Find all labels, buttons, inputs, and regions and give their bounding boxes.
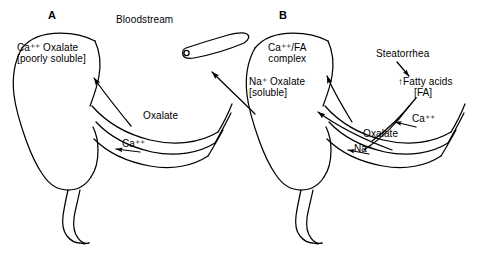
panel-a-label-calcium: Ca⁺⁺ <box>122 138 145 149</box>
panel-b-label-steatorrhea: Steatorrhea <box>376 48 429 59</box>
panel-b-fatty-acids-line1: Fatty acids <box>403 76 452 87</box>
panel-b-arrow-to-complex <box>327 76 352 122</box>
panel-b-label-sodium: Na⁺ <box>354 143 372 154</box>
panel-b-colon-outline <box>246 33 333 244</box>
panel-a-colon-outline <box>13 33 100 244</box>
panel-a-label-oxalate: Oxalate <box>143 110 178 121</box>
panel-a-arrow-calcium <box>116 149 140 152</box>
panel-b-ca-fa-line2: complex <box>268 53 306 64</box>
panel-b-ca-fa-line1: Ca⁺⁺/FA <box>268 42 307 53</box>
panel-a-calcium-oxalate-line2: [poorly soluble] <box>17 53 86 64</box>
figure-canvas: A Ca⁺⁺ Oxalate [poorly soluble] Oxalate … <box>0 0 487 254</box>
panel-b-label-sodium-oxalate: Na⁺ Oxalate [soluble] <box>249 76 305 98</box>
panel-b-label-ca-fa-complex: Ca⁺⁺/FA complex <box>268 42 307 64</box>
bloodstream-label: Bloodstream <box>116 14 173 25</box>
steatorrhea-pointer-arrow <box>397 62 409 76</box>
panel-b-label-oxalate: Oxalate <box>363 128 398 139</box>
panel-a-label-calcium-oxalate: Ca⁺⁺ Oxalate [poorly soluble] <box>17 42 86 64</box>
bloodstream-vessel-shape <box>183 33 249 58</box>
panel-b-sodium-oxalate-line2: [soluble] <box>249 87 287 98</box>
panel-a-calcium-oxalate-line1: Ca⁺⁺ Oxalate <box>17 42 78 53</box>
diagram-vector-layer <box>0 0 487 254</box>
panel-b-fatty-acids-line2: [FA] <box>398 87 432 98</box>
panel-b-letter: B <box>279 10 287 21</box>
panel-a-letter: A <box>48 10 56 21</box>
panel-a-arrow-to-complex <box>94 78 131 126</box>
panel-b-sodium-oxalate-line1: Na⁺ Oxalate <box>249 76 305 87</box>
panel-b-label-calcium: Ca⁺⁺ <box>412 113 435 124</box>
panel-b-label-fatty-acids: ↑Fatty acids [FA] <box>398 76 453 98</box>
